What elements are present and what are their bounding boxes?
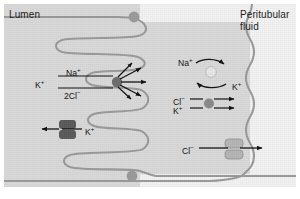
cl-channel-barrel-bottom	[225, 150, 243, 159]
k-cl-cotransporter	[190, 99, 234, 109]
nkcc-cl-label: 2Cl−	[64, 88, 81, 101]
kcl-k-label: K+	[173, 103, 182, 116]
peritubular-label-line2: fluid	[240, 21, 259, 32]
figure-canvas: Lumen Peritubular fluid K+ Na+ 2Cl− K+ N…	[0, 0, 300, 199]
k-channel-barrel-top	[59, 120, 76, 129]
nkcc-na-label: Na+	[66, 65, 81, 78]
tight-junction-top	[129, 12, 140, 23]
cl-channel-label: Cl−	[182, 143, 194, 156]
apical-k-channel	[42, 120, 82, 139]
pump-na-label: Na+	[178, 55, 193, 68]
nkcc-k-label: K+	[35, 77, 44, 90]
tight-junction-bottom	[127, 171, 138, 182]
cell-cytoplasm	[140, 4, 296, 187]
lumen-label: Lumen	[9, 9, 40, 20]
peritubular-label-line1: Peritubular	[240, 9, 289, 20]
na-k-atpase-pump	[196, 59, 226, 87]
k-channel-barrel-bottom	[59, 130, 76, 139]
k-cl-marker	[204, 99, 214, 109]
apical-k-channel-label: K+	[85, 124, 94, 137]
basolateral-membrane	[4, 4, 254, 181]
na-k-pump-marker	[206, 67, 217, 78]
pump-k-label: K+	[232, 79, 241, 92]
cl-channel-barrel-top	[225, 139, 243, 148]
